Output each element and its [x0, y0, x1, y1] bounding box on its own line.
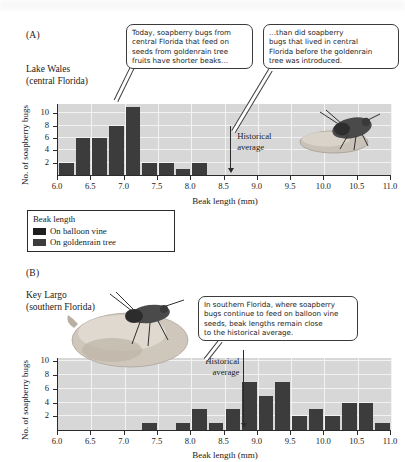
x-axis-tick-label: 8.0: [177, 181, 203, 191]
y-axis-tick: [53, 389, 57, 390]
x-axis-tick-label: 9.5: [277, 436, 303, 446]
histogram-bar: [359, 403, 374, 430]
y-axis-tick: [53, 375, 57, 376]
panel-a-callout-1-line4: fruits have shorter beaks…: [132, 56, 248, 65]
y-axis-tick: [53, 416, 57, 417]
x-axis-tick-label: 7.5: [144, 181, 170, 191]
y-axis-tick-label: 10: [33, 107, 49, 117]
histogram-bar: [159, 163, 174, 175]
soapberry-bug-on-seedpod-illustration-b: [60, 288, 200, 370]
histogram-bar: [192, 409, 207, 430]
x-axis-tick: [290, 431, 291, 435]
x-axis-tick: [357, 176, 358, 180]
y-axis-tick: [53, 403, 57, 404]
x-axis-tick: [157, 176, 158, 180]
gridline-horizontal: [58, 402, 391, 403]
x-axis-tick: [390, 176, 391, 180]
y-axis-tick: [53, 150, 57, 151]
historical-average-label: Historicalaverage: [181, 356, 239, 377]
legend-swatch-goldenrain-tree: [33, 239, 46, 246]
legend-label-goldenrain-tree: On goldenrain tree: [50, 237, 116, 247]
histogram-bar: [176, 169, 191, 175]
legend: Beak length On balloon vine On goldenrai…: [27, 210, 175, 252]
x-axis-tick-label: 8.5: [211, 181, 237, 191]
histogram-bar: [142, 163, 157, 175]
gridline-horizontal: [58, 388, 391, 389]
y-axis-tick-label: 8: [33, 120, 49, 130]
x-axis-tick: [90, 431, 91, 435]
x-axis-tick-label: 6.5: [77, 181, 103, 191]
y-axis-tick-label: 10: [33, 355, 49, 365]
panel-b-callout-1-line2: bugs continue to feed on balloon vine: [204, 309, 353, 318]
panel-a-location-line1: Lake Wales: [26, 64, 70, 74]
panel-a-callout-1-line1: Today, soapberry bugs from: [132, 28, 248, 37]
histogram-bar: [292, 416, 307, 430]
soapberry-bug-on-seedpod-illustration-a: [290, 104, 386, 156]
panel-a-callout-2: …than did soapberry bugs that lived in c…: [263, 24, 399, 69]
x-axis-tick: [57, 431, 58, 435]
historical-average-label-line1: Historical: [237, 131, 271, 142]
historical-average-label-line2: average: [181, 367, 239, 378]
x-axis-tick-label: 7.0: [111, 181, 137, 191]
x-axis-tick-label: 6.5: [77, 436, 103, 446]
x-axis-tick: [57, 176, 58, 180]
panel-b-callout-1-line4: to the historical average.: [204, 328, 353, 337]
y-axis-tick: [53, 138, 57, 139]
histogram-bar: [309, 409, 324, 430]
y-axis-tick-label: 2: [33, 157, 49, 167]
y-axis-tick-label: 6: [33, 132, 49, 142]
x-axis-tick: [157, 431, 158, 435]
panel-b-letter: (B): [26, 268, 39, 278]
figure-soapberry-beak-length: (A) Lake Wales (central Florida) Today, …: [0, 0, 405, 462]
page-top-artifact: [0, 0, 405, 10]
x-axis-tick-label: 6.0: [44, 436, 70, 446]
histogram-bar: [226, 409, 241, 430]
histogram-bar: [192, 163, 207, 175]
y-axis-tick-label: 8: [33, 369, 49, 379]
x-axis-tick: [257, 176, 258, 180]
y-axis-tick-label: 2: [33, 410, 49, 420]
legend-title: Beak length: [33, 214, 168, 224]
x-axis-tick: [224, 431, 225, 435]
historical-average-label-line2: average: [237, 142, 271, 153]
panel-a-callout-2-line1: …than did soapberry: [269, 28, 394, 37]
histogram-bar: [375, 423, 390, 430]
x-axis-tick: [124, 431, 125, 435]
histogram-bar: [109, 126, 124, 175]
x-axis-tick: [323, 431, 324, 435]
gridline-horizontal: [58, 162, 391, 163]
histogram-bar: [259, 396, 274, 430]
x-axis-tick-label: 9.0: [244, 181, 270, 191]
x-axis-tick: [90, 176, 91, 180]
panel-a-location: Lake Wales (central Florida): [26, 64, 88, 87]
y-axis-tick: [53, 126, 57, 127]
histogram-bar: [126, 107, 141, 175]
panel-b-callout-1-line3: seeds, beak lengths remain close: [204, 319, 353, 328]
histogram-bar: [325, 416, 340, 430]
x-axis-tick-label: 9.5: [277, 181, 303, 191]
x-axis-tick: [357, 431, 358, 435]
y-axis-tick: [53, 113, 57, 114]
histogram-bar: [59, 163, 74, 175]
legend-swatch-balloon-vine: [33, 228, 46, 235]
histogram-bar: [342, 403, 357, 430]
panel-a-location-line2: (central Florida): [26, 76, 88, 86]
historical-average-label: Historicalaverage: [237, 131, 271, 152]
historical-average-arrow-shaft: [243, 350, 244, 423]
legend-item-balloon-vine: On balloon vine: [33, 226, 168, 236]
panel-a-callout-2-line3: Florida before the goldenrain: [269, 47, 394, 56]
gridline-horizontal: [58, 415, 391, 416]
x-axis-tick-label: 10.0: [310, 436, 336, 446]
panel-a-callout-1-line3: seeds from goldenrain tree: [132, 47, 248, 56]
x-axis-tick: [190, 176, 191, 180]
x-axis-tick-label: 11.0: [377, 436, 403, 446]
panel-b-x-axis-title: Beak length (mm): [160, 450, 290, 460]
x-axis-tick-label: 9.0: [244, 436, 270, 446]
panel-a-callout-1-line2: central Florida that feed on: [132, 37, 248, 46]
gridline-vertical: [391, 104, 392, 175]
x-axis-tick: [257, 431, 258, 435]
y-axis-tick: [53, 163, 57, 164]
panel-a-callout-2-line4: tree was introduced.: [269, 56, 394, 65]
x-axis-tick-label: 8.0: [177, 436, 203, 446]
y-axis-tick-label: 6: [33, 383, 49, 393]
